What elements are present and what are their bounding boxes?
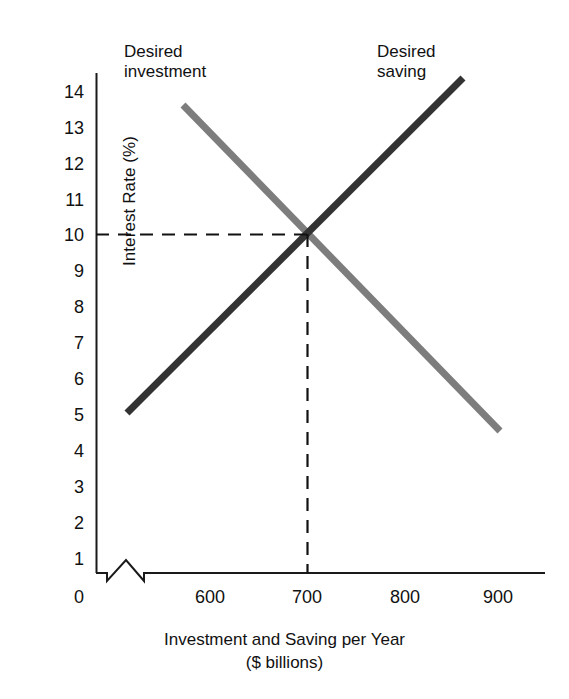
y-tick-label-6: 6 [48, 370, 84, 388]
series-label-desired-saving: Desired saving [377, 42, 436, 82]
y-tick-label-13: 13 [48, 119, 84, 137]
chart-figure: Interest Rate (%) 14 13 12 11 10 9 8 7 6… [0, 0, 569, 699]
y-tick-label-0: 0 [48, 588, 84, 606]
y-tick-label-11: 11 [48, 191, 84, 209]
x-tick-label-600: 600 [175, 588, 245, 606]
x-tick-label-800: 800 [370, 588, 440, 606]
desired-saving-line [127, 78, 463, 413]
y-tick-label-10: 10 [48, 226, 84, 244]
series-label-desired-investment: Desired investment [124, 42, 206, 82]
y-tick-label-2: 2 [48, 514, 84, 532]
y-tick-label-5: 5 [48, 406, 84, 424]
y-tick-label-7: 7 [48, 334, 84, 352]
y-tick-label-3: 3 [48, 478, 84, 496]
x-axis-break-zigzag [96, 560, 545, 581]
y-tick-label-12: 12 [48, 155, 84, 173]
desired-investment-line [183, 105, 500, 431]
y-tick-label-4: 4 [48, 442, 84, 460]
x-tick-label-900: 900 [463, 588, 533, 606]
x-axis-title-line2: ($ billions) [0, 651, 569, 674]
x-tick-label-700: 700 [272, 588, 342, 606]
y-tick-label-1: 1 [48, 550, 84, 568]
x-axis-title-line1: Investment and Saving per Year [0, 628, 569, 651]
y-tick-label-8: 8 [48, 298, 84, 316]
y-tick-label-14: 14 [48, 83, 84, 101]
y-tick-label-9: 9 [48, 262, 84, 280]
